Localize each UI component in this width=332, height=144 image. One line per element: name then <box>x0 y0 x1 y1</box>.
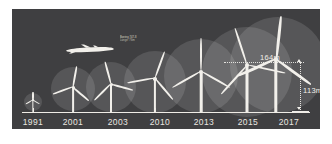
year-label-row: 1991 2001 2003 2010 2013 2015 2017 <box>12 117 320 129</box>
ground-axis <box>22 112 310 113</box>
axis-tick <box>201 108 202 112</box>
airplane-label: Boeing 747-8 Länge: 76m <box>120 36 154 43</box>
figure-caption <box>12 133 320 144</box>
blade <box>72 66 77 87</box>
chart-panel: Boeing 747-8 Länge: 76m 164m 113m 1991 2… <box>12 9 320 129</box>
year-label-1991: 1991 <box>23 117 44 127</box>
axis-tick <box>33 108 34 112</box>
blade <box>53 86 73 95</box>
airplane-label-line2: Länge: 76m <box>120 39 154 42</box>
blade <box>172 70 202 88</box>
axis-tick <box>155 108 156 112</box>
rotor-span-arrow-up <box>297 59 301 62</box>
year-label-2017: 2017 <box>279 117 300 127</box>
airplane-icon <box>64 43 116 55</box>
rotor-span-arrow-down <box>297 107 301 110</box>
blade <box>33 99 41 104</box>
blade <box>104 62 112 85</box>
axis-tick <box>276 108 277 112</box>
year-label-2001: 2001 <box>63 117 84 127</box>
turbine-2017 <box>228 15 320 113</box>
tower <box>274 60 277 113</box>
rotor-span-dotted-line <box>300 62 301 110</box>
year-label-2003: 2003 <box>108 117 129 127</box>
blade <box>127 77 155 84</box>
year-label-2013: 2013 <box>194 117 215 127</box>
infographic-root: Boeing 747-8 Länge: 76m 164m 113m 1991 2… <box>0 0 332 144</box>
year-label-2015: 2015 <box>238 117 259 127</box>
axis-tick <box>247 108 248 112</box>
axis-tick <box>73 108 74 112</box>
axis-tick <box>111 108 112 112</box>
hub-height-label: 164m <box>260 53 280 62</box>
year-label-2010: 2010 <box>150 117 171 127</box>
hub-height-dotted-line <box>224 62 304 63</box>
rotor-span-label: 113m <box>303 86 320 95</box>
blade <box>94 83 111 100</box>
